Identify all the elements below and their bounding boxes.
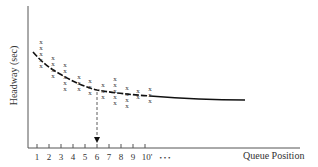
svg-text:x: x: [39, 62, 43, 70]
x-tick-labels: 1 2 3 4 5 6 7 8 9 10' • • •: [35, 152, 171, 162]
tick-label-3: 3: [59, 152, 64, 162]
data-markers: xxxxx xxxx xxxxx xxx xxx xxx xxxxx xxxx …: [39, 38, 152, 110]
svg-text:x: x: [101, 93, 105, 101]
x-ticks: [37, 144, 145, 148]
svg-text:x: x: [125, 102, 129, 110]
tick-label-1: 1: [35, 152, 40, 162]
tick-label-4: 4: [71, 152, 76, 162]
tick-label-7: 7: [107, 152, 112, 162]
tick-label-2: 2: [47, 152, 52, 162]
headway-curve-solid: [150, 96, 245, 100]
svg-text:x: x: [63, 85, 67, 93]
x-axis-label: Queue Position: [243, 150, 304, 161]
headway-chart: 1 2 3 4 5 6 7 8 9 10' • • • xxxxx xxxx x…: [0, 0, 318, 167]
arrow-head-icon: [94, 137, 100, 143]
svg-text:x: x: [113, 99, 117, 107]
tick-label-9: 9: [131, 152, 136, 162]
svg-text:x: x: [88, 89, 92, 97]
tick-label-5: 5: [83, 152, 88, 162]
svg-text:x: x: [77, 85, 81, 93]
svg-text:x: x: [136, 93, 140, 101]
svg-text:x: x: [148, 97, 152, 105]
svg-text:x: x: [51, 72, 55, 80]
tick-label-6: 6: [95, 152, 100, 162]
tick-label-8: 8: [119, 152, 124, 162]
y-axis-label: Headway (sec): [8, 41, 19, 111]
continuation-dots: • • •: [160, 154, 171, 162]
tick-label-10: 10': [142, 152, 153, 162]
